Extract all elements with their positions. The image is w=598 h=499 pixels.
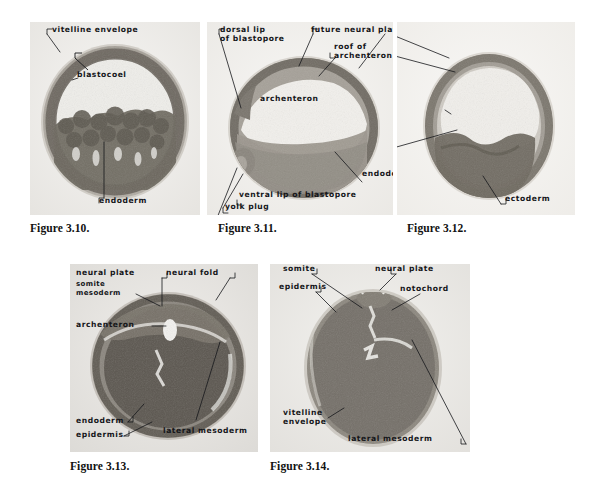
label-neural-plate-3-13: neural plate (76, 268, 135, 277)
label-somite-3-14: somite (283, 264, 315, 273)
micrograph-blastula (30, 22, 200, 215)
figure-panel-3-10: vitelline envelope blastocoel endoderm (30, 22, 200, 215)
label-yolk-plug-3-11: yolk plug (225, 202, 269, 211)
label-vitelline-envelope-3-10: vitelline envelope (52, 25, 138, 34)
caption-figure-3-12: Figure 3.12. (407, 222, 466, 234)
label-ventral-lip-3-11: ventral lip of blastopore (239, 190, 357, 199)
figure-plate: vitelline envelope blastocoel endoderm (0, 0, 598, 499)
label-roof-of-archenteron-3-11: roof of archenteron (334, 42, 393, 61)
label-archenteron-3-11: archenteron (260, 94, 319, 103)
label-vitelline-envelope-3-14: vitelline envelope (283, 408, 326, 427)
caption-figure-3-10: Figure 3.10. (30, 222, 89, 234)
figure-panel-3-12: ectoderm (397, 22, 575, 215)
caption-figure-3-11: Figure 3.11. (218, 222, 277, 234)
label-endoderm-3-13: endoderm (76, 416, 124, 425)
label-neural-fold-3-13: neural fold (166, 268, 219, 277)
figure-panel-3-13: neural plate neural fold somite mesoderm… (70, 264, 258, 452)
label-archenteron-3-13: archenteron (76, 320, 135, 329)
label-endoderm-3-10: endoderm (99, 196, 147, 205)
label-dorsal-lip-3-11: dorsal lip of blastopore (220, 25, 284, 44)
figure-panel-3-11: dorsal lip of blastopore future neural p… (207, 22, 393, 215)
micrograph-late-gastrula (397, 22, 575, 215)
label-somite-mesoderm-3-13: somite mesoderm (76, 280, 121, 297)
label-epidermis-3-14: epidermis (279, 282, 327, 291)
label-blastocoel-3-10: blastocoel (77, 70, 127, 79)
label-lateral-mesoderm-3-14: lateral mesoderm (348, 434, 432, 443)
caption-figure-3-13: Figure 3.13. (70, 460, 129, 472)
figure-panel-3-14: somite neural plate epidermis notochord … (270, 264, 470, 452)
label-ectoderm-3-12: ectoderm (505, 194, 550, 203)
label-endoderm-3-11: endoderm (362, 169, 393, 178)
label-lateral-mesoderm-3-13: lateral mesoderm (163, 426, 247, 435)
label-neural-plate-3-14: neural plate (375, 264, 434, 273)
label-notochord-3-14: notochord (400, 284, 449, 293)
label-epidermis-3-13: epidermis (76, 430, 124, 439)
label-future-neural-plate-3-11: future neural plate (311, 25, 393, 34)
caption-figure-3-14: Figure 3.14. (270, 460, 329, 472)
